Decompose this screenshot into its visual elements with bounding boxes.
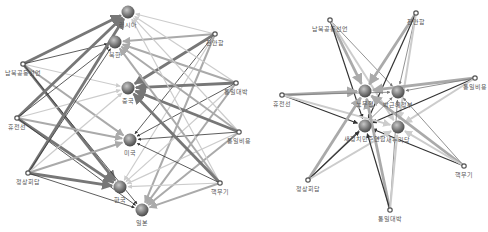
- node-label: 미국: [124, 148, 136, 157]
- edge: [137, 143, 220, 183]
- graph-node[interactable]: [109, 36, 122, 49]
- graph-node[interactable]: [473, 76, 477, 80]
- graph-node[interactable]: [359, 85, 372, 98]
- graph-node[interactable]: [218, 181, 222, 185]
- edge: [405, 131, 464, 166]
- graph-node[interactable]: [15, 116, 19, 120]
- edge: [136, 83, 236, 88]
- edge: [123, 34, 215, 41]
- graph-node[interactable]: [392, 121, 405, 134]
- node-label: 새누리당: [386, 135, 410, 144]
- graph-node[interactable]: [306, 178, 310, 182]
- node-label: 남북공동선언: [312, 24, 348, 33]
- edge: [23, 16, 121, 64]
- graph-node[interactable]: [462, 164, 466, 168]
- node-label: 일본: [136, 218, 148, 227]
- graph-node[interactable]: [388, 208, 392, 212]
- node-label: 정상회담: [296, 184, 320, 193]
- node-label: 정상회담: [16, 177, 40, 186]
- edge: [17, 47, 109, 118]
- graph-node[interactable]: [328, 18, 332, 22]
- node-label: 통일대박: [224, 87, 248, 96]
- edge: [126, 83, 236, 182]
- graph-node[interactable]: [213, 32, 217, 36]
- node-label: 박근혜정부: [383, 100, 413, 109]
- node-label: 휴전선: [273, 99, 291, 108]
- graph-node[interactable]: [359, 120, 372, 133]
- graph-node[interactable]: [280, 93, 284, 97]
- edge: [135, 34, 215, 84]
- node-label: 통일비용: [227, 136, 251, 145]
- node-label: 남북공동선언: [5, 68, 41, 77]
- node-label: 노무현: [356, 99, 374, 108]
- node-label: 중국: [122, 96, 134, 105]
- graph-node[interactable]: [21, 62, 25, 66]
- node-label: 천안함: [206, 38, 224, 47]
- node-label: 휴전선: [8, 122, 26, 131]
- edge: [123, 45, 236, 83]
- graph-node[interactable]: [122, 82, 135, 95]
- node-label: 핵무기: [211, 187, 229, 196]
- graph-node[interactable]: [234, 81, 238, 85]
- edge: [23, 44, 107, 64]
- edge: [390, 135, 397, 210]
- graph-node[interactable]: [237, 130, 241, 134]
- edge: [136, 14, 215, 34]
- network-graph: [0, 0, 488, 232]
- node-label: 천안함: [407, 17, 425, 26]
- graph-node[interactable]: [124, 134, 137, 147]
- graph-node[interactable]: [414, 11, 418, 15]
- node-label: 러시아: [119, 20, 137, 29]
- graph-node[interactable]: [114, 181, 127, 194]
- edge: [367, 99, 390, 210]
- node-label: 북한: [109, 50, 121, 59]
- graph-node[interactable]: [136, 204, 149, 217]
- graph-node[interactable]: [122, 6, 135, 19]
- node-label: 새정치민주연합: [344, 134, 386, 143]
- node-label: 통일비용: [463, 82, 487, 91]
- graph-node[interactable]: [26, 171, 30, 175]
- node-label: 통일대박: [378, 214, 402, 223]
- edge: [367, 134, 390, 210]
- node-label: 핵무기: [455, 170, 473, 179]
- graph-node[interactable]: [392, 86, 405, 99]
- node-label: 한국: [114, 195, 126, 204]
